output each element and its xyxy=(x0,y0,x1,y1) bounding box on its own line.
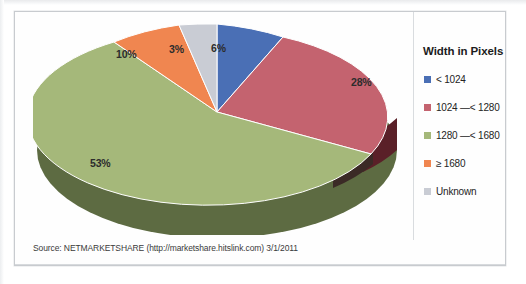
legend-swatch-icon-gte-1680 xyxy=(424,160,431,167)
legend-swatch-icon-1280-1680 xyxy=(424,132,431,139)
legend-item-lt-1024[interactable]: < 1024 xyxy=(424,74,466,85)
legend-title: Width in Pixels xyxy=(423,45,503,57)
legend-item-1280-1680[interactable]: 1280 —< 1680 xyxy=(424,130,500,141)
pie-value-label-1280-1680: 53% xyxy=(90,157,110,169)
legend-label-1024-1280: 1024 —< 1280 xyxy=(436,102,500,113)
pie-value-label-unknown: 3% xyxy=(169,43,184,55)
legend-item-gte-1680[interactable]: ≥ 1680 xyxy=(424,158,465,169)
pie-value-label-gte-1680: 10% xyxy=(116,48,136,60)
pie-3d-chart: 6% 3% 10% 28% 53% xyxy=(33,20,401,235)
scan-left-edge xyxy=(0,0,4,284)
legend-label-1280-1680: 1280 —< 1680 xyxy=(436,130,500,141)
chart-frame: 6% 3% 10% 28% 53% Width in Pixels < 1024… xyxy=(14,11,506,266)
legend-label-unknown: Unknown xyxy=(436,186,476,197)
legend-swatch-icon-lt-1024 xyxy=(424,76,431,83)
pie-value-label-lt-1024: 6% xyxy=(211,42,226,54)
legend-swatch-icon-1024-1280 xyxy=(424,104,431,111)
legend-label-lt-1024: < 1024 xyxy=(436,74,466,85)
footer-rule xyxy=(15,264,505,265)
pie-value-label-1024-1280: 28% xyxy=(351,76,371,88)
legend-label-gte-1680: ≥ 1680 xyxy=(436,158,465,169)
legend-item-1024-1280[interactable]: 1024 —< 1280 xyxy=(424,102,500,113)
legend-swatch-icon-unknown xyxy=(424,188,431,195)
legend-item-unknown[interactable]: Unknown xyxy=(424,186,476,197)
source-note: Source: NETMARKETSHARE (http://marketsha… xyxy=(33,243,298,253)
scan-top-edge xyxy=(0,0,526,5)
plot-area: 6% 3% 10% 28% 53% xyxy=(15,12,407,240)
legend: Width in Pixels < 1024 1024 —< 1280 1280… xyxy=(413,12,507,240)
